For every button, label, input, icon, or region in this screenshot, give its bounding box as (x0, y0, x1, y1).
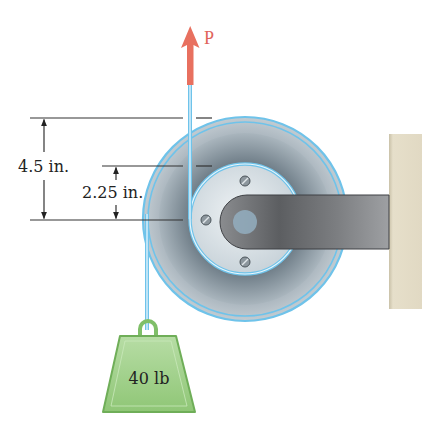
screw-icon (240, 257, 250, 267)
wall-support (389, 134, 422, 309)
axle (233, 210, 257, 234)
support-arm (220, 195, 389, 249)
arrow-up-icon (181, 26, 200, 48)
weight-label: 40 lb (129, 369, 170, 388)
screw-icon (201, 215, 211, 225)
force-label: P (204, 28, 214, 48)
weight: 40 lb (103, 321, 195, 412)
outer-dimension-label: 4.5 in. (18, 157, 69, 176)
pulley-diagram: P 4.5 in. 2.25 in. 40 lb (0, 0, 433, 426)
inner-dimension-label: 2.25 in. (82, 183, 143, 202)
screw-icon (240, 176, 250, 186)
force-arrow-p (181, 26, 200, 85)
